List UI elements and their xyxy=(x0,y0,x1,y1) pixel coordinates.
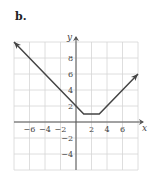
x-tick-label: −4 xyxy=(39,125,51,134)
y-tick-label: 4 xyxy=(68,86,73,95)
x-tick-label: −2 xyxy=(55,125,67,134)
chart: xy−6−4−22468642−2−4 xyxy=(0,0,153,178)
x-tick-label: 6 xyxy=(120,125,125,134)
y-tick-label: 6 xyxy=(68,70,73,79)
x-tick-label: 2 xyxy=(89,125,94,134)
x-tick-label: 4 xyxy=(104,125,109,134)
y-tick-label: 8 xyxy=(68,54,73,63)
x-axis-label: x xyxy=(142,123,147,133)
y-axis-label: y xyxy=(66,32,73,42)
x-tick-label: −6 xyxy=(24,125,36,134)
y-tick-label: −4 xyxy=(61,150,73,159)
y-tick-label: 2 xyxy=(68,102,73,111)
y-tick-label: −2 xyxy=(61,134,73,143)
